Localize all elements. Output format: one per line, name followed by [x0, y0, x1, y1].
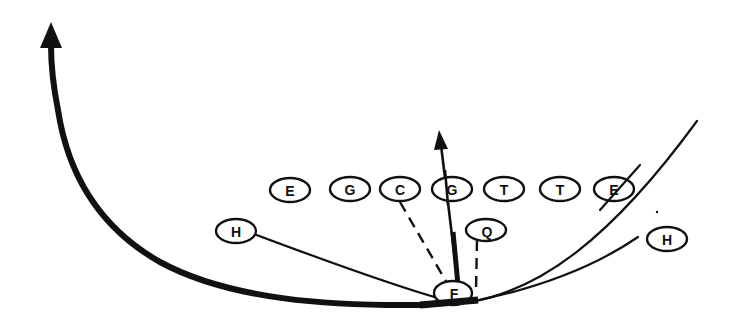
right-end-route [470, 121, 697, 302]
right-halfback-motion-route [470, 237, 638, 302]
player-right-halfback: H [647, 227, 687, 251]
player-label: T [500, 182, 509, 198]
player-left-end: E [270, 178, 310, 202]
player-label: H [662, 232, 672, 248]
player-right-tackle: T [484, 177, 524, 201]
quarterback-dashed-route [476, 240, 477, 290]
player-label: T [556, 182, 565, 198]
left-halfback-motion-route [254, 234, 445, 300]
offensive-line: E G C G T T E [270, 170, 634, 205]
stray-mark [656, 211, 658, 213]
guard-upfield-route [434, 130, 458, 285]
player-label: G [345, 182, 356, 198]
sweep-arrowhead-icon [40, 22, 62, 48]
player-label: C [395, 182, 405, 198]
player-right-end: E [594, 177, 634, 201]
football-play-diagram: E G C G T T E H [0, 0, 731, 330]
sweep-base-overlay [420, 300, 478, 305]
player-quarterback: Q [466, 219, 506, 241]
player-left-halfback: H [216, 219, 256, 243]
center-dashed-route [400, 202, 447, 283]
fullback-sweep-route [40, 22, 478, 305]
player-label: Q [482, 224, 493, 240]
upfield-arrowhead-icon [434, 130, 448, 150]
player-label: H [231, 224, 241, 240]
player-right-tackle-2: T [540, 177, 580, 201]
player-right-guard: G [432, 170, 472, 205]
player-center: C [380, 177, 420, 201]
player-label: E [285, 183, 294, 199]
player-left-guard: G [330, 177, 370, 201]
